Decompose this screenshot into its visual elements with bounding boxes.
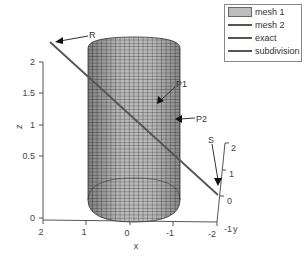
z-axis	[39, 62, 43, 220]
legend-item-exact: exact	[228, 31, 301, 44]
x-tick-neg1: -1	[166, 228, 174, 238]
z-tick-2: 2	[30, 57, 35, 67]
svg-text:P1: P1	[176, 79, 187, 89]
y-axis-label: y	[233, 224, 238, 234]
x-tick-0: 0	[124, 228, 129, 238]
legend: mesh 1 mesh 2 exact subdivision	[224, 4, 302, 62]
x-tick-1: 1	[81, 227, 86, 237]
cylinder-mesh	[88, 37, 180, 222]
x-axis-label: x	[134, 241, 139, 251]
legend-item-mesh2: mesh 2	[228, 18, 301, 31]
subdivision-swatch	[228, 50, 252, 52]
z-tick-0: 0	[30, 213, 35, 223]
z-tick-1: 1	[30, 120, 35, 130]
mesh2-swatch	[228, 24, 252, 26]
legend-item-mesh1: mesh 1	[228, 5, 301, 18]
z-axis-label: z	[14, 124, 24, 129]
exact-swatch	[228, 37, 252, 39]
svg-text:R: R	[89, 30, 96, 40]
legend-item-subdivision: subdivision	[228, 44, 301, 57]
z-tick-1.5: 1.5	[22, 88, 35, 98]
mesh1-swatch	[228, 7, 252, 17]
annotation-R: R	[55, 30, 96, 44]
x-tick-2: 2	[38, 227, 43, 237]
svg-text:S: S	[208, 135, 214, 145]
annotation-S: S	[208, 135, 222, 186]
y-tick-neg1: -1	[224, 224, 232, 234]
z-tick-0.5: 0.5	[22, 151, 35, 161]
y-tick-2: 2	[231, 143, 236, 153]
svg-text:P2: P2	[196, 114, 207, 124]
y-tick-1: 1	[229, 169, 234, 179]
y-tick-0: 0	[227, 196, 232, 206]
x-tick-neg2: -2	[208, 229, 216, 239]
